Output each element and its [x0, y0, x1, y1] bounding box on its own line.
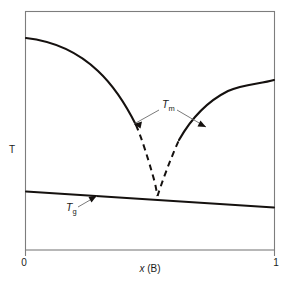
- tg-label-subscript: g: [72, 207, 76, 216]
- tm-leader-left: [134, 110, 159, 124]
- y-axis-label: T: [9, 144, 15, 155]
- tg-label: Tg: [66, 201, 77, 216]
- x-tick-label-0: 0: [21, 257, 27, 268]
- tm-label-subscript: m: [168, 104, 174, 113]
- x-tick-label-1: 1: [273, 257, 279, 268]
- x-axis-label: x (B): [138, 263, 160, 274]
- tm-label: Tm: [162, 98, 175, 113]
- liquidus-left-solid: [26, 38, 136, 125]
- glass-transition-line: [26, 192, 274, 208]
- liquidus-left-dashed: [136, 125, 158, 196]
- figure-container: T x (B) 0 1 Tm Tg: [0, 0, 292, 287]
- phase-diagram-plot: T x (B) 0 1 Tm Tg: [0, 0, 292, 287]
- tm-arrowhead-right: [198, 121, 207, 128]
- liquidus-right-solid: [179, 80, 274, 140]
- x-axis-label-paren: (B): [144, 263, 160, 274]
- liquidus-right-dashed: [158, 140, 180, 196]
